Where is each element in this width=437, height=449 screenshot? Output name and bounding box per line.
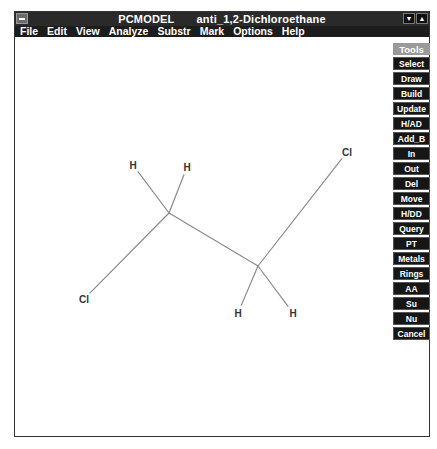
- atom-label[interactable]: H: [129, 160, 136, 171]
- atom-label[interactable]: H: [289, 308, 296, 319]
- atom-label[interactable]: Cl: [79, 294, 89, 305]
- bond-line[interactable]: [258, 158, 342, 266]
- bond-line[interactable]: [90, 213, 169, 293]
- atom-label[interactable]: H: [183, 162, 190, 173]
- bond-line[interactable]: [169, 174, 184, 213]
- bond-line[interactable]: [241, 266, 258, 306]
- molecule-drawing[interactable]: HHClClHH: [0, 0, 437, 449]
- bond-line[interactable]: [138, 171, 169, 213]
- atom-label[interactable]: Cl: [342, 147, 352, 158]
- bond-line[interactable]: [258, 266, 288, 307]
- bond-line[interactable]: [169, 213, 258, 266]
- atom-label[interactable]: H: [234, 308, 241, 319]
